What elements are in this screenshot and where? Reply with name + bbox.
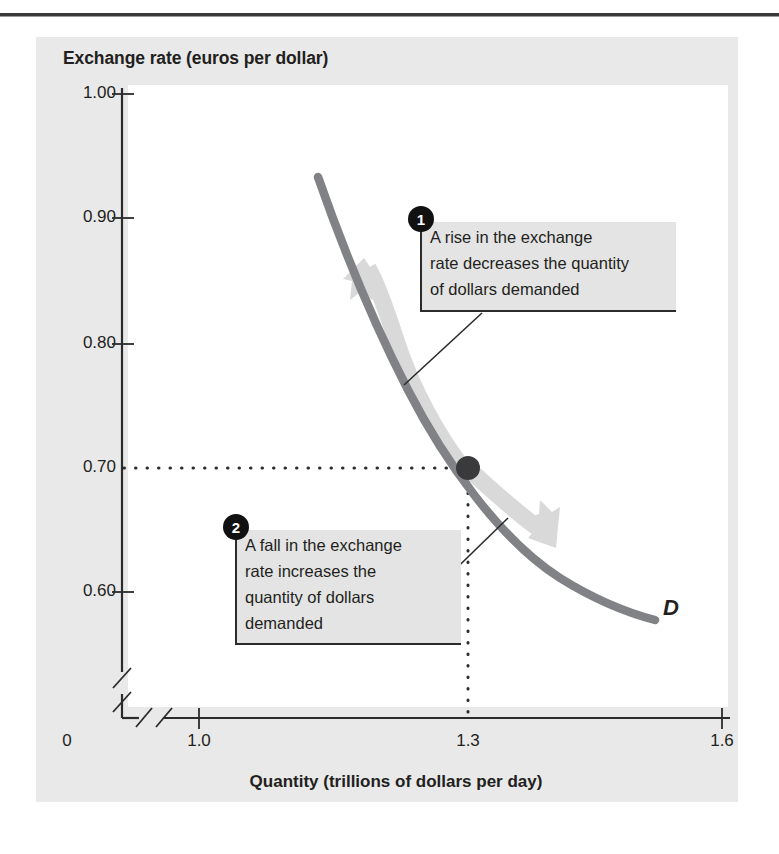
callout-2-line-4: demanded xyxy=(237,612,461,638)
demand-curve-label: D xyxy=(663,595,679,621)
leader-line-callout-1 xyxy=(404,313,482,385)
callout-2-line-1: A fall in the exchange xyxy=(237,530,461,560)
callout-2-line-2: rate increases the xyxy=(237,560,461,586)
callout-badge-2: 2 xyxy=(223,514,249,540)
callout-2-line-3: quantity of dollars xyxy=(237,586,461,612)
callout-1-line-2: rate decreases the quantity xyxy=(422,252,676,278)
callout-box-1: A rise in the exchange rate decreases th… xyxy=(420,222,676,312)
equilibrium-point xyxy=(456,456,480,480)
figure-container: Exchange rate (euros per dollar) 1.00 0.… xyxy=(0,0,779,854)
callout-box-2: A fall in the exchange rate increases th… xyxy=(235,530,461,645)
callout-badge-1: 1 xyxy=(408,206,434,232)
callout-1-line-1: A rise in the exchange xyxy=(422,222,676,252)
chart-graphics xyxy=(0,0,779,854)
callout-1-line-3: of dollars demanded xyxy=(422,278,676,304)
